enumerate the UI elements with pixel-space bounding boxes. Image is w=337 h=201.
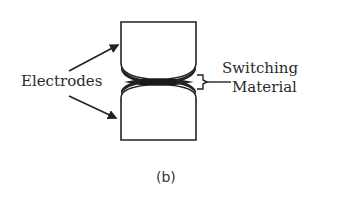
- switching-material-label-line2: Material: [232, 80, 297, 95]
- switching-material-bracket: [197, 75, 207, 89]
- switching-material-label-line1: Switching: [222, 61, 298, 76]
- diagram-canvas: Electrodes Switching Material (b): [0, 0, 337, 201]
- figure-caption: (b): [156, 170, 176, 184]
- electrodes-label: Electrodes: [21, 74, 102, 89]
- bottom-electrode: [121, 85, 196, 140]
- switching-material: [140, 79, 176, 85]
- top-electrode: [121, 22, 196, 79]
- electrodes-arrow-top: [69, 45, 118, 71]
- electrodes-arrow-bottom: [69, 96, 116, 118]
